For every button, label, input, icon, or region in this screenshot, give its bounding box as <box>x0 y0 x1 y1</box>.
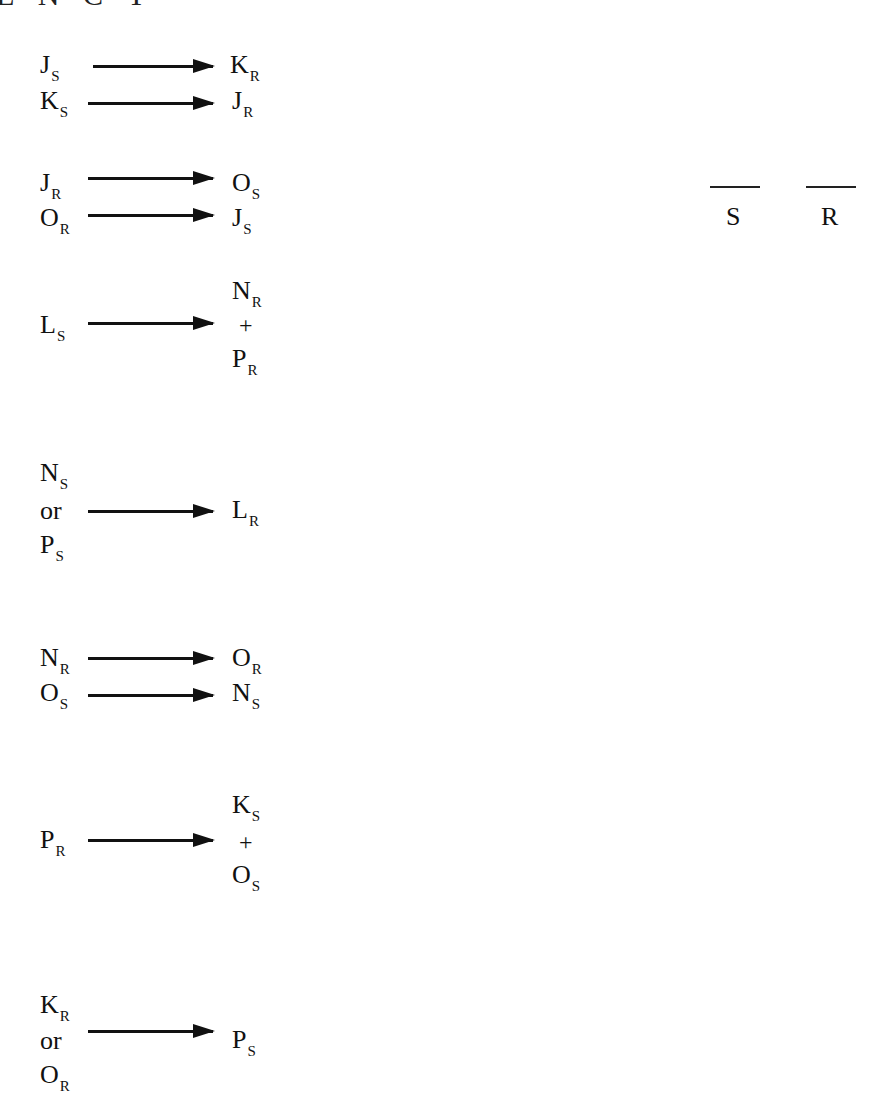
rule-6-from: NR <box>40 645 70 682</box>
rule-1-from: KS <box>40 88 68 125</box>
rule-5-or: or <box>40 498 62 524</box>
rule-4-to-1: NR <box>232 278 262 315</box>
rule-4-plus: + <box>239 313 253 337</box>
rule-9-from-2: OR <box>40 1062 70 1099</box>
rule-8-plus: + <box>239 830 253 854</box>
right-arrow-icon <box>88 322 213 325</box>
right-arrow-icon <box>88 1030 213 1033</box>
right-arrow-icon <box>88 510 213 513</box>
rule-9-or: or <box>40 1028 62 1054</box>
rule-0-to: KR <box>230 52 260 89</box>
rule-3-to: JS <box>232 205 251 242</box>
answer-blank-s[interactable] <box>710 186 760 188</box>
rule-3-from: OR <box>40 205 70 242</box>
right-arrow-icon <box>93 65 213 68</box>
rule-0-from: JS <box>40 52 59 89</box>
right-arrow-icon <box>88 177 213 180</box>
rule-1-to: JR <box>232 88 253 125</box>
rule-4-to-2: PR <box>232 346 257 383</box>
answer-blank-r[interactable] <box>806 186 856 188</box>
rule-9-to: PS <box>232 1027 256 1064</box>
rule-5-from-1: NS <box>40 460 68 497</box>
rule-4-from: LS <box>40 312 65 349</box>
rule-9-from-1: KR <box>40 992 70 1029</box>
right-arrow-icon <box>88 102 213 105</box>
answer-label-r: R <box>821 204 838 230</box>
right-arrow-icon <box>88 214 213 217</box>
rule-2-from: JR <box>40 170 61 207</box>
page-heading-clipped: E N C Y <box>0 0 155 12</box>
rule-2-to: OS <box>232 170 260 207</box>
rule-5-to: LR <box>232 497 259 534</box>
rule-7-from: OS <box>40 680 68 717</box>
rule-6-to: OR <box>232 645 262 682</box>
rule-7-to: NS <box>232 680 260 717</box>
answer-label-s: S <box>726 204 740 230</box>
rule-8-from: PR <box>40 827 65 864</box>
rule-8-to-1: KS <box>232 792 260 829</box>
rule-5-from-2: PS <box>40 532 64 569</box>
right-arrow-icon <box>88 657 213 660</box>
rule-8-to-2: OS <box>232 862 260 899</box>
right-arrow-icon <box>88 839 213 842</box>
right-arrow-icon <box>88 694 213 697</box>
